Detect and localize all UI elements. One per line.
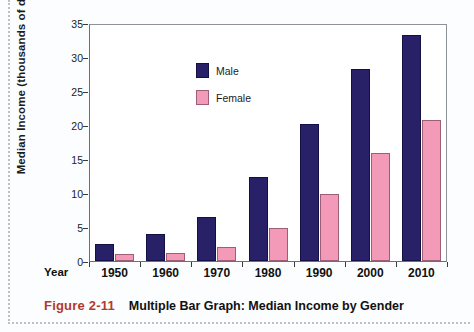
bar-female-1960 — [166, 253, 185, 261]
bar-group — [402, 25, 441, 261]
x-tick-label: 2010 — [408, 266, 435, 280]
x-tick-label: 1980 — [255, 266, 282, 280]
y-tick-label: 15 — [71, 154, 83, 166]
bar-female-2000 — [371, 153, 390, 261]
x-tick-mark — [294, 262, 295, 267]
y-tick-mark — [83, 194, 88, 195]
y-tick-mark — [83, 24, 88, 25]
y-tick-mark — [83, 92, 88, 93]
x-tick-mark — [242, 262, 243, 267]
x-tick-mark — [89, 262, 90, 267]
legend-label-male: Male — [216, 65, 239, 77]
bar-male-1950 — [95, 244, 114, 261]
y-tick-mark — [83, 126, 88, 127]
bar-male-2010 — [402, 35, 421, 261]
bar-female-1980 — [269, 228, 288, 261]
x-tick-mark — [191, 262, 192, 267]
x-tick-label: 1950 — [101, 266, 128, 280]
bar-female-1950 — [115, 254, 134, 261]
bar-group — [300, 25, 339, 261]
bar-group — [197, 25, 236, 261]
figure-number: Figure 2-11 — [44, 298, 115, 313]
legend-item-female: Female — [196, 90, 251, 105]
y-tick-mark — [83, 228, 88, 229]
x-tick-label: 2000 — [357, 266, 384, 280]
bar-female-1990 — [320, 194, 339, 261]
figure-title: Multiple Bar Graph: Median Income by Gen… — [129, 299, 404, 313]
bar-male-2000 — [351, 69, 370, 261]
y-tick-label: 35 — [71, 18, 83, 30]
legend-item-male: Male — [196, 63, 251, 78]
x-tick-label: 1960 — [152, 266, 179, 280]
y-tick-label: 30 — [71, 52, 83, 64]
y-tick-label: 10 — [71, 188, 83, 200]
bar-group — [249, 25, 288, 261]
bar-male-1980 — [249, 177, 268, 261]
bar-group — [146, 25, 185, 261]
bar-chart: Median Income (thousands of dollars) 051… — [0, 0, 474, 292]
x-tick-mark — [345, 262, 346, 267]
legend-swatch-male — [196, 63, 209, 78]
x-tick-label: 1970 — [203, 266, 230, 280]
bar-male-1970 — [197, 217, 216, 261]
bar-female-1970 — [217, 247, 236, 261]
y-axis-title: Median Income (thousands of dollars) — [15, 0, 33, 179]
x-tick-mark — [396, 262, 397, 267]
x-axis-tick-labels: 1950196019701980199020002010 — [0, 266, 474, 286]
figure-caption: Figure 2-11 Multiple Bar Graph: Median I… — [44, 298, 404, 313]
plot-area: Male Female — [89, 24, 447, 262]
x-tick-label: 1990 — [306, 266, 333, 280]
y-tick-label: 25 — [71, 86, 83, 98]
bar-male-1990 — [300, 124, 319, 261]
y-tick-mark — [83, 160, 88, 161]
bar-group — [95, 25, 134, 261]
bar-male-1960 — [146, 234, 165, 261]
bar-female-2010 — [422, 120, 441, 261]
y-tick-mark — [83, 262, 88, 263]
y-tick-mark — [83, 58, 88, 59]
legend: Male Female — [196, 63, 251, 117]
bar-group — [351, 25, 390, 261]
figure-page: Median Income (thousands of dollars) 051… — [0, 0, 474, 332]
x-tick-mark — [447, 262, 448, 267]
bars-layer — [90, 25, 446, 261]
legend-swatch-female — [196, 90, 209, 105]
x-tick-mark — [140, 262, 141, 267]
legend-label-female: Female — [216, 92, 251, 104]
y-tick-label: 20 — [71, 120, 83, 132]
dotted-rule-bottom — [8, 322, 470, 324]
y-axis-tick-labels: 05101520253035 — [56, 0, 89, 292]
